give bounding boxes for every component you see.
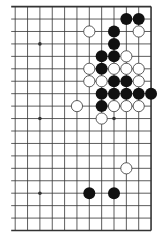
black-stone <box>96 63 108 75</box>
white-stone <box>108 101 119 112</box>
white-stone <box>96 76 107 87</box>
black-stone <box>96 50 108 62</box>
white-stone <box>108 63 119 74</box>
white-stone <box>121 63 132 74</box>
star-point <box>38 117 42 121</box>
black-stone <box>120 88 132 100</box>
black-stone <box>108 88 120 100</box>
star-point <box>38 191 42 195</box>
black-stone <box>133 88 145 100</box>
go-board <box>0 0 161 239</box>
white-stone <box>84 63 95 74</box>
black-stone <box>120 13 132 25</box>
black-stone <box>108 25 120 37</box>
white-stone <box>121 101 132 112</box>
star-point <box>112 117 116 121</box>
white-stone <box>121 163 132 174</box>
go-board-diagram: 15 18 <box>0 0 161 239</box>
black-stone <box>120 75 132 87</box>
white-stone <box>84 26 95 37</box>
black-stone <box>83 187 95 199</box>
white-stone <box>133 26 144 37</box>
black-stone <box>108 75 120 87</box>
black-stone <box>145 88 157 100</box>
white-stone <box>121 51 132 62</box>
white-stone <box>133 101 144 112</box>
black-stone <box>108 38 120 50</box>
white-stone <box>84 76 95 87</box>
black-stone <box>108 50 120 62</box>
black-stone <box>108 187 120 199</box>
star-point <box>38 42 42 46</box>
white-stone <box>71 101 82 112</box>
white-stone <box>133 63 144 74</box>
black-stone <box>96 88 108 100</box>
black-stone <box>133 13 145 25</box>
white-stone <box>133 76 144 87</box>
black-stone <box>96 100 108 112</box>
white-stone <box>96 113 107 124</box>
